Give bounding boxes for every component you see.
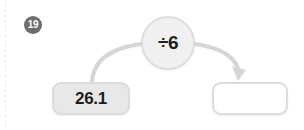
input-value-label: 26.1 (75, 89, 107, 109)
input-curve-path (92, 44, 141, 84)
output-arrowhead-icon (232, 66, 246, 81)
output-answer-box[interactable] (212, 82, 288, 115)
operator-circle: ÷6 (141, 16, 195, 70)
input-value-box: 26.1 (52, 82, 130, 115)
output-arrow-path (195, 44, 239, 73)
worksheet-exercise-canvas: 19 ÷6 26.1 (0, 0, 304, 130)
operator-label: ÷6 (158, 32, 178, 54)
